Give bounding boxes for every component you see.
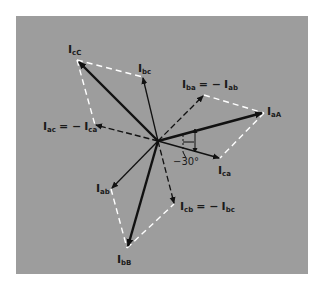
angle-label: −30° [173, 156, 199, 167]
phasor-diagram: −30° IcC Ibc IaA Ica Iab IbB Iba= −Iab I… [0, 0, 321, 300]
diagram-background [16, 16, 308, 274]
